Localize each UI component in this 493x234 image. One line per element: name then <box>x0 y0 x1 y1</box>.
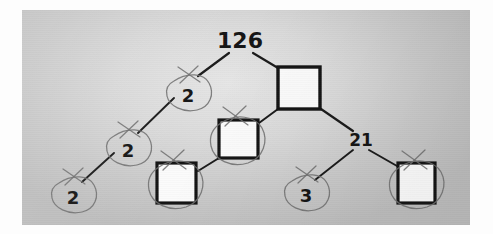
edge-root-to-box63 <box>253 53 278 68</box>
node-label-3: 3 <box>300 185 313 206</box>
edge-boxmid-to-boxlow <box>198 158 219 171</box>
node-label-21: 21 <box>349 130 373 150</box>
tree-boxes <box>157 67 435 203</box>
node-label-2c: 2 <box>67 187 80 208</box>
answer-box-63[interactable] <box>278 67 320 109</box>
tree-node-labels: 126 2 2 21 2 3 <box>67 28 373 208</box>
screenshot-root: 126 2 2 21 2 3 <box>0 0 493 234</box>
edge-root-to-2a <box>198 53 229 76</box>
edge-21-to-3 <box>315 150 353 180</box>
node-label-root: 126 <box>217 28 263 53</box>
edge-box63-to-boxmid <box>259 109 278 123</box>
answer-box-low[interactable] <box>157 163 196 203</box>
edge-2a-to-2b <box>138 98 174 133</box>
answer-box-right[interactable] <box>398 163 435 203</box>
node-label-2a: 2 <box>182 85 195 106</box>
edge-box63-to-21 <box>321 109 353 131</box>
node-label-2b: 2 <box>122 140 135 161</box>
factor-tree-diagram: 126 2 2 21 2 3 <box>22 10 470 225</box>
edge-2b-to-2c <box>82 153 114 182</box>
worksheet-photo: 126 2 2 21 2 3 <box>22 10 470 225</box>
